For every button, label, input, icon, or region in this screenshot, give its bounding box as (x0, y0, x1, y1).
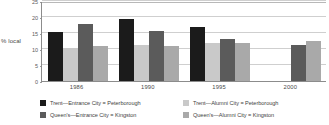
bar (134, 45, 149, 81)
bar (205, 43, 220, 81)
bar (291, 45, 306, 81)
legend-swatch-icon (183, 112, 189, 118)
y-tick-label: 25 (32, 0, 38, 5)
bar-group (255, 2, 326, 81)
legend-label: Trent—Alumni City = Peterborough (193, 100, 278, 106)
bar (149, 31, 164, 81)
bar (306, 41, 321, 81)
legend-swatch-icon (40, 112, 46, 118)
chart-legend: Trent—Entrance City = PeterboroughTrent—… (40, 97, 329, 121)
legend-item[interactable]: Queen's—Entrance City = Kingston (40, 112, 183, 118)
bar-group (113, 2, 184, 81)
y-tick-label: 20 (32, 15, 38, 21)
bar (78, 24, 93, 81)
legend-swatch-icon (183, 100, 189, 106)
y-tick-label: 0 (35, 79, 38, 85)
bar-groups (42, 2, 326, 81)
bar-group (184, 2, 255, 81)
bar (164, 46, 179, 81)
bar (119, 19, 134, 81)
legend-item[interactable]: Trent—Entrance City = Peterborough (40, 100, 183, 106)
y-axis-ticks: 0510152025 (22, 0, 40, 92)
y-axis-title: % local (1, 38, 21, 44)
x-tick-label: 1990 (112, 84, 183, 90)
legend-label: Queen's—Alumni City = Kingston (193, 112, 274, 118)
bar-chart: % local 0510152025 1986199019952000 Tren… (0, 0, 329, 125)
y-tick-label: 10 (32, 47, 38, 53)
x-axis-labels: 1986199019952000 (41, 84, 326, 90)
legend-swatch-icon (40, 100, 46, 106)
y-tick-label: 15 (32, 31, 38, 37)
legend-item[interactable]: Trent—Alumni City = Peterborough (183, 100, 329, 106)
plot-area (41, 2, 326, 82)
x-tick-label: 1995 (184, 84, 255, 90)
gridline (42, 0, 326, 1)
bar (235, 43, 250, 81)
bar (48, 32, 63, 81)
legend-label: Queen's—Entrance City = Kingston (50, 112, 136, 118)
bar-group (42, 2, 113, 81)
legend-item[interactable]: Queen's—Alumni City = Kingston (183, 112, 329, 118)
bar (220, 39, 235, 81)
bar (63, 48, 78, 81)
x-tick-label: 2000 (255, 84, 326, 90)
x-tick-label: 1986 (41, 84, 112, 90)
legend-label: Trent—Entrance City = Peterborough (50, 100, 141, 106)
plot-wrapper: % local 0510152025 1986199019952000 (0, 0, 329, 92)
y-tick-label: 5 (35, 63, 38, 69)
y-tick-mark (40, 82, 42, 83)
bar (190, 27, 205, 81)
bar (93, 46, 108, 81)
